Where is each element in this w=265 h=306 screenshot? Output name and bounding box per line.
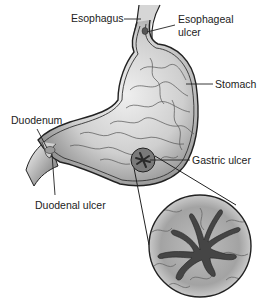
esophageal-ulcer-leader [147,25,175,32]
label-duodenum: Duodenum [11,114,62,126]
label-esophagus: Esophagus [71,12,124,24]
stomach-ulcer-diagram [0,0,265,306]
label-stomach: Stomach [215,78,256,90]
stomach-body [38,20,198,186]
label-duodenal-ulcer: Duodenal ulcer [35,199,106,211]
label-gastric-ulcer: Gastric ulcer [192,154,251,166]
label-esophageal-ulcer-line2: ulcer [178,26,201,38]
magnified-gastric-ulcer [149,195,251,297]
label-esophageal-ulcer-line1: Esophageal [178,13,233,25]
esophageal-ulcer-spot [142,28,148,35]
